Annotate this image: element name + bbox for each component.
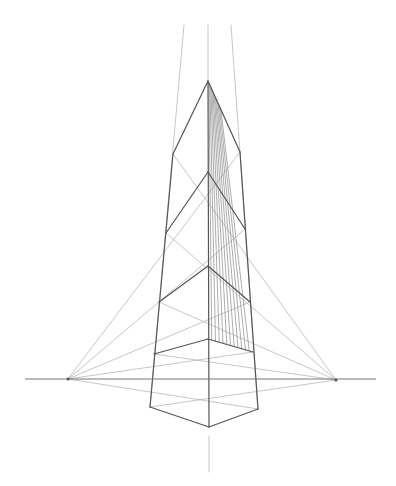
tower-edge bbox=[159, 266, 208, 302]
left-vp-ray bbox=[68, 229, 245, 379]
right-vanishing-point bbox=[334, 378, 337, 381]
right-vp-ray bbox=[150, 380, 336, 407]
right-vp-ray bbox=[154, 354, 336, 380]
tower-edge bbox=[150, 154, 173, 407]
perspective-drawing bbox=[0, 0, 396, 486]
left-vp-ray bbox=[68, 379, 258, 409]
tower-edge bbox=[240, 152, 258, 409]
tower-edge bbox=[209, 409, 258, 427]
tower-edge bbox=[154, 339, 208, 354]
left-vanishing-point bbox=[66, 377, 69, 380]
tower-edge bbox=[208, 81, 209, 427]
left-vp-ray bbox=[68, 352, 253, 379]
tower-edges bbox=[150, 81, 258, 427]
construction-guides bbox=[68, 25, 336, 472]
tower-edge bbox=[150, 407, 209, 427]
tower-edge bbox=[208, 172, 245, 229]
right-vp-ray bbox=[159, 302, 336, 380]
perspective-drawing-canvas: Three-point perspective tower drawing bbox=[0, 0, 396, 486]
